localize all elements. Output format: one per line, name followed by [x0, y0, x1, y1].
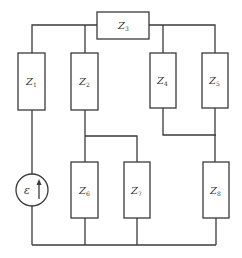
wire-z4-join: [163, 108, 216, 135]
svg-text:4: 4: [164, 80, 168, 87]
svg-text:7: 7: [138, 190, 142, 197]
svg-text:1: 1: [33, 81, 37, 88]
wire-top-right: [149, 25, 215, 53]
svg-text:6: 6: [86, 190, 90, 197]
svg-text:ε: ε: [24, 184, 30, 197]
circuit-diagram: Z 3 Z 1 Z 2 Z 4 Z 5 Z 6 Z 7 Z 8: [0, 0, 242, 258]
impedance-z5: Z 5: [202, 53, 228, 108]
voltage-source: ε: [16, 174, 48, 206]
impedance-z2: Z 2: [71, 53, 98, 110]
svg-text:2: 2: [86, 81, 90, 88]
wire-z7-branch: [85, 136, 137, 162]
wire-top-left: [32, 25, 97, 53]
impedance-z8: Z 8: [203, 162, 229, 218]
impedance-z6: Z 6: [71, 162, 98, 218]
svg-text:3: 3: [125, 25, 129, 32]
impedance-z7: Z 7: [124, 162, 150, 218]
impedance-z1: Z 1: [18, 53, 45, 110]
svg-text:8: 8: [217, 190, 221, 197]
impedance-z3: Z 3: [97, 12, 149, 39]
svg-text:5: 5: [216, 80, 220, 87]
impedance-z4: Z 4: [150, 53, 176, 108]
